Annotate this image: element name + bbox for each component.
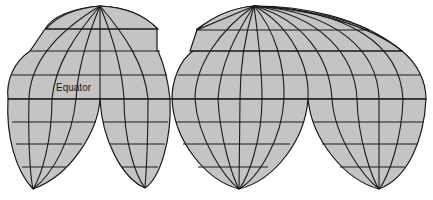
equator-label: Equator	[56, 82, 91, 93]
lobe-north-east	[172, 6, 426, 99]
map-projection	[0, 0, 433, 200]
